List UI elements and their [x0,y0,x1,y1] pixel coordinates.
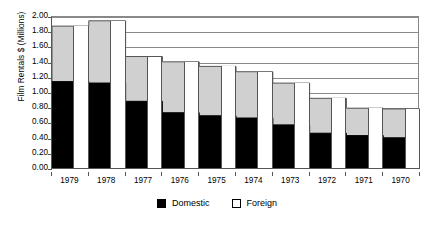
bar-separator [73,26,88,168]
bar-separator [221,66,236,168]
x-tick-label: 1973 [281,176,299,185]
bar-separator [405,109,420,168]
bar-separator [257,72,272,168]
x-tick-label: 1979 [60,176,78,185]
bar-separator [331,98,346,168]
film-rentals-chart: Film Rentals $ (Millions) 2.001.801.601.… [0,0,434,226]
y-axis-labels: 2.001.801.601.401.201.000.800.600.400.20… [18,0,48,226]
x-tick-label: 1977 [134,176,152,185]
legend-item-domestic: Domestic [157,198,210,208]
x-tick-label: 1975 [207,176,225,185]
chart-legend: Domestic Foreign [0,198,434,208]
x-axis-tick [235,172,236,176]
x-axis-tick [345,172,346,176]
y-tick-label: 2.00 [32,12,48,20]
x-axis-tick [272,172,273,176]
x-axis-tick [382,172,383,176]
y-tick-label: 0.60 [32,118,48,126]
legend-label-foreign: Foreign [247,198,278,208]
bar-separator [184,62,199,168]
x-axis-tick [125,172,126,176]
y-tick-label: 1.80 [32,27,48,35]
x-axis-tick [309,172,310,176]
x-axis-line [51,168,420,169]
plot-area [51,16,419,168]
bar-separators [52,17,418,168]
x-axis-tick [88,172,89,176]
legend-label-domestic: Domestic [172,198,210,208]
y-tick-label: 0.00 [32,164,48,172]
y-axis-tick [48,169,52,170]
y-tick-label: 1.20 [32,73,48,81]
x-tick-label: 1971 [355,176,373,185]
x-axis-tick [51,172,52,176]
x-axis-labels: 1979197819771976197519741973197219711970 [51,172,419,192]
y-tick-label: 0.80 [32,103,48,111]
x-tick-label: 1970 [391,176,409,185]
y-tick-label: 1.40 [32,58,48,66]
y-tick-label: 0.40 [32,134,48,142]
bar-separator [110,21,125,168]
bar-separator [147,57,162,168]
x-tick-label: 1978 [97,176,115,185]
bar-separator [368,108,383,168]
x-tick-label: 1972 [318,176,336,185]
x-tick-label: 1976 [171,176,189,185]
legend-item-foreign: Foreign [232,198,278,208]
x-axis-tick [161,172,162,176]
x-tick-label: 1974 [244,176,262,185]
bar-separator [294,83,309,168]
x-axis-tick [419,172,420,176]
y-tick-label: 1.60 [32,42,48,50]
y-tick-label: 1.00 [32,88,48,96]
white-square-icon [232,199,241,208]
x-axis-tick [198,172,199,176]
black-square-icon [157,199,166,208]
y-tick-label: 0.20 [32,149,48,157]
